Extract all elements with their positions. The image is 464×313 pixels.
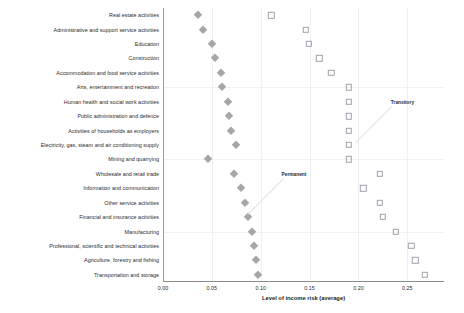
category-label: Professional, scientific and technical a… (49, 243, 159, 249)
data-point-transitory (360, 185, 366, 191)
data-point-transitory (346, 127, 352, 133)
horizontal-gridline (163, 232, 444, 233)
data-point-permanent (194, 11, 203, 20)
data-point-transitory (302, 26, 308, 32)
data-point-transitory (392, 228, 398, 234)
data-point-transitory (346, 113, 352, 119)
data-point-transitory (346, 84, 352, 90)
x-axis-line (163, 281, 444, 282)
x-tick-label: 0.15 (304, 285, 315, 291)
data-point-permanent (217, 83, 226, 92)
data-point-permanent (237, 184, 246, 193)
plot-area (163, 8, 444, 282)
category-label: Agriculture, forestry and fishing (84, 257, 159, 263)
category-axis-labels: Real estate activitiesAdministrative and… (0, 0, 163, 282)
data-point-transitory (412, 257, 418, 263)
vertical-gridline (358, 8, 359, 282)
x-tick-label: 0.05 (207, 285, 218, 291)
category-label: Education (135, 41, 159, 47)
category-label: Arts, entertainment and recreation (77, 84, 159, 90)
data-point-permanent (232, 141, 241, 150)
data-point-permanent (251, 256, 260, 265)
data-point-transitory (380, 214, 386, 220)
data-point-permanent (225, 112, 234, 121)
category-label: Financial and insurance activities (79, 214, 159, 220)
data-point-transitory (377, 199, 383, 205)
data-point-permanent (207, 40, 216, 49)
data-point-transitory (305, 41, 311, 47)
category-label: Real estate activities (109, 12, 159, 18)
data-point-permanent (223, 97, 232, 106)
vertical-gridline (310, 8, 311, 282)
data-point-permanent (241, 198, 250, 207)
data-point-transitory (422, 272, 428, 278)
x-tick-label: 0.10 (255, 285, 266, 291)
data-point-permanent (230, 169, 239, 178)
category-label: Transportation and storage (94, 272, 159, 278)
data-point-permanent (250, 242, 259, 251)
income-risk-scatter-chart: Real estate activitiesAdministrative and… (0, 0, 464, 313)
data-point-transitory (268, 12, 274, 18)
category-label: Information and communication (83, 185, 159, 191)
category-label: Mining and quarrying (108, 156, 159, 162)
category-label: Accommodation and food service activitie… (56, 70, 159, 76)
series-annotation: Permanent (282, 171, 307, 176)
x-tick-label: 0.00 (158, 285, 169, 291)
x-tick-label: 0.25 (402, 285, 413, 291)
category-label: Activities of households as employers (68, 128, 159, 134)
data-point-transitory (408, 243, 414, 249)
category-label: Administrative and support service activ… (54, 27, 159, 33)
data-point-transitory (346, 156, 352, 162)
data-point-transitory (377, 171, 383, 177)
data-point-transitory (328, 70, 334, 76)
data-point-transitory (346, 142, 352, 148)
vertical-gridline (407, 8, 408, 282)
vertical-gridline (261, 8, 262, 282)
category-label: Other service activities (104, 200, 159, 206)
category-label: Electricity, gas, steam and air conditio… (41, 142, 159, 148)
x-axis-title: Level of income risk (average) (163, 295, 444, 301)
horizontal-gridline (163, 87, 444, 88)
data-point-transitory (346, 99, 352, 105)
category-label: Construction (128, 55, 159, 61)
category-label: Human health and social work activities (64, 99, 159, 105)
data-point-transitory (316, 55, 322, 61)
data-point-permanent (216, 69, 225, 78)
category-label: Wholesale and retail trade (96, 171, 159, 177)
data-point-permanent (199, 25, 208, 34)
category-label: Public administration and defence (77, 113, 159, 119)
y-axis-line (163, 8, 164, 282)
series-annotation: Transitory (391, 99, 414, 104)
category-label: Manufacturing (125, 229, 159, 235)
data-point-permanent (227, 126, 236, 135)
data-point-permanent (248, 227, 257, 236)
x-tick-label: 0.20 (353, 285, 364, 291)
vertical-gridline (212, 8, 213, 282)
